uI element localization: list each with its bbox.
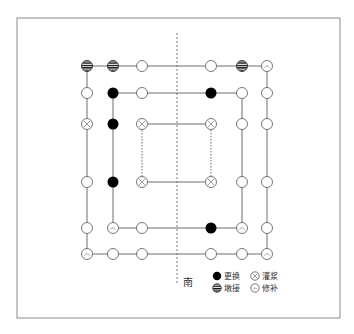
cross-circle-icon	[206, 177, 217, 188]
patched-circle-icon	[108, 223, 119, 234]
cross-circle-icon	[137, 177, 148, 188]
striped-circle-icon	[82, 61, 93, 72]
filled-circle-icon	[206, 88, 217, 99]
empty-circle-icon	[82, 177, 93, 188]
empty-circle-icon	[262, 223, 273, 234]
empty-circle-icon	[137, 249, 148, 260]
filled-circle-icon	[108, 88, 119, 99]
empty-circle-icon	[206, 249, 217, 260]
cross-circle-icon	[206, 119, 217, 130]
empty-circle-icon	[237, 119, 248, 130]
legend-item-guanjiang: 灌浆	[251, 271, 278, 281]
empty-circle-icon	[262, 88, 273, 99]
legend-label: 墩接	[224, 283, 240, 293]
empty-circle-icon	[137, 223, 148, 234]
legend-label: 更换	[224, 271, 240, 281]
patched-circle-icon	[237, 223, 248, 234]
empty-circle-icon	[108, 249, 119, 260]
figure-frame	[17, 18, 340, 318]
empty-circle-icon	[262, 119, 273, 130]
empty-circle-icon	[82, 223, 93, 234]
filled-circle-icon	[108, 119, 119, 130]
striped-circle-icon	[108, 61, 119, 72]
legend: 更换灌浆墩接修补	[213, 271, 278, 293]
empty-circle-icon	[206, 61, 217, 72]
patched-circle-icon	[251, 284, 259, 292]
patched-circle-icon	[82, 249, 93, 260]
legend-label: 灌浆	[262, 271, 278, 281]
ring-inner	[142, 124, 211, 182]
legend-item-dunjie: 墩接	[213, 283, 240, 293]
filled-circle-icon	[206, 223, 217, 234]
legend-item-genghuan: 更换	[213, 271, 240, 281]
empty-circle-icon	[82, 88, 93, 99]
legend-label: 修补	[262, 283, 278, 293]
patched-circle-icon	[262, 61, 273, 72]
cross-circle-icon	[82, 119, 93, 130]
empty-circle-icon	[262, 177, 273, 188]
south-label: 南	[183, 276, 193, 288]
ring-middle	[113, 93, 242, 228]
filled-circle-icon	[213, 272, 221, 280]
cross-circle-icon	[137, 119, 148, 130]
legend-item-xiubu: 修补	[251, 283, 278, 293]
striped-circle-icon	[213, 284, 221, 292]
empty-circle-icon	[137, 88, 148, 99]
column-grid-diagram: 南 更换灌浆墩接修补	[0, 0, 354, 334]
empty-circle-icon	[137, 61, 148, 72]
patched-circle-icon	[262, 249, 273, 260]
empty-circle-icon	[237, 88, 248, 99]
filled-circle-icon	[108, 177, 119, 188]
empty-circle-icon	[237, 249, 248, 260]
cross-circle-icon	[251, 272, 259, 280]
empty-circle-icon	[237, 177, 248, 188]
striped-circle-icon	[237, 61, 248, 72]
